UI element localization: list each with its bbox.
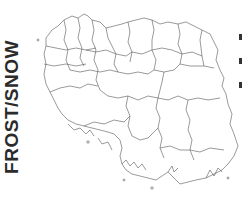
legend-swatch-2: [239, 58, 242, 64]
legend-caption: [229, 27, 235, 87]
legend: [224, 28, 246, 94]
legend-swatch-3: [239, 82, 242, 88]
legend-swatch-1: [239, 34, 242, 40]
outline-map: [28, 0, 249, 210]
map-title: FROST/SNOW: [0, 37, 24, 177]
